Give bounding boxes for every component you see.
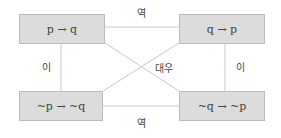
- box-not-p-implies-not-q: ~p → ~q: [19, 91, 103, 121]
- box-q-implies-p: q → p: [179, 14, 265, 44]
- box-p-implies-q: p → q: [19, 14, 105, 44]
- box-label: ~p → ~q: [37, 100, 86, 113]
- label-converse-top: 역: [137, 5, 146, 20]
- label-inverse-right: 이: [236, 59, 245, 74]
- box-label: p → q: [47, 23, 77, 36]
- box-label: ~q → ~p: [198, 100, 247, 113]
- label-contrapositive: 대우: [155, 60, 173, 75]
- label-converse-bottom: 역: [137, 115, 146, 130]
- box-label: q → p: [207, 23, 237, 36]
- box-not-q-implies-not-p: ~q → ~p: [179, 91, 265, 121]
- label-inverse-left: 이: [42, 59, 51, 74]
